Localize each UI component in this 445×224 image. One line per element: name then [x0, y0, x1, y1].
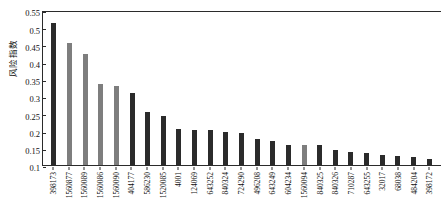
x-axis-labels: 3981731560877156008915600861560090404177… [42, 167, 441, 224]
bar-slot [124, 12, 140, 165]
x-tick-mark [429, 167, 430, 170]
x-tick-slot: 32017 [374, 167, 390, 224]
y-tick-label: 0.15 [25, 146, 43, 156]
bar-404177[interactable] [130, 93, 135, 165]
bar-slot [281, 12, 297, 165]
bar-slot [359, 12, 375, 165]
x-tick-label-484204: 484204 [409, 172, 418, 195]
bar-398173[interactable] [51, 23, 56, 165]
y-tick-0.45: 0.45 [25, 37, 43, 55]
x-tick-mark [288, 167, 289, 170]
x-tick-label-68038: 68038 [393, 172, 402, 191]
y-tick-label: 0.4 [29, 60, 43, 70]
y-tick-0.5: 0.5 [29, 20, 43, 38]
plot-area: 0.550.50.450.40.350.30.250.20.150.1 [42, 11, 441, 166]
x-tick-mark [319, 167, 320, 170]
bar-604234[interactable] [286, 145, 291, 165]
bar-slot [46, 12, 62, 165]
bar-slot [328, 12, 344, 165]
bar-68038[interactable] [395, 156, 400, 165]
x-tick-label-586230: 586230 [142, 172, 151, 195]
bar-643252[interactable] [208, 130, 213, 165]
x-tick-slot: 840324 [218, 167, 234, 224]
bar-slot [406, 12, 422, 165]
bar-643255[interactable] [364, 153, 369, 165]
bar-1560877[interactable] [67, 43, 72, 165]
x-tick-mark [178, 167, 179, 170]
x-tick-slot: 1560089 [76, 167, 92, 224]
bar-slot [249, 12, 265, 165]
bar-4001[interactable] [176, 129, 181, 165]
bar-840326[interactable] [333, 150, 338, 165]
x-tick-label-840325: 840325 [315, 172, 324, 195]
x-tick-label-1520085: 1520085 [158, 172, 167, 198]
bar-586230[interactable] [145, 112, 150, 165]
y-tick-0.35: 0.35 [25, 72, 43, 90]
y-tick-label: 0.55 [25, 8, 43, 18]
x-tick-mark [335, 167, 336, 170]
bar-840325[interactable] [317, 145, 322, 165]
x-tick-label-1560877: 1560877 [64, 172, 73, 198]
x-tick-label-840324: 840324 [221, 172, 230, 195]
bar-slot [390, 12, 406, 165]
x-tick-label-32017: 32017 [378, 172, 387, 191]
y-tick-0.1: 0.1 [29, 158, 43, 176]
bar-1560086[interactable] [98, 84, 103, 165]
bar-slot [155, 12, 171, 165]
x-tick-label-124069: 124069 [190, 172, 199, 195]
x-tick-mark [84, 167, 85, 170]
x-tick-mark [209, 167, 210, 170]
x-tick-mark [413, 167, 414, 170]
y-tick-label: 0.25 [25, 112, 43, 122]
x-tick-slot: 404177 [123, 167, 139, 224]
x-tick-slot: 1560086 [92, 167, 108, 224]
x-tick-mark [99, 167, 100, 170]
x-tick-label-643249: 643249 [268, 172, 277, 195]
y-tick-0.15: 0.15 [25, 141, 43, 159]
y-tick-label: 0.35 [25, 77, 43, 87]
bar-484204[interactable] [411, 157, 416, 165]
bar-1560089[interactable] [83, 54, 88, 165]
x-tick-mark [225, 167, 226, 170]
x-tick-slot: 1520085 [155, 167, 171, 224]
x-tick-mark [194, 167, 195, 170]
x-tick-mark [397, 167, 398, 170]
x-tick-slot: 840325 [312, 167, 328, 224]
x-tick-slot: 398172 [422, 167, 438, 224]
bar-840324[interactable] [223, 132, 228, 165]
x-tick-mark [366, 167, 367, 170]
x-tick-label-1560089: 1560089 [80, 172, 89, 198]
x-tick-mark [115, 167, 116, 170]
x-tick-slot: 643249 [265, 167, 281, 224]
bar-1560094[interactable] [302, 145, 307, 165]
y-tick-label: 0.1 [29, 163, 43, 173]
bar-710287[interactable] [348, 152, 353, 165]
bar-124069[interactable] [192, 130, 197, 165]
x-tick-slot: 643255 [359, 167, 375, 224]
x-tick-slot: 4001 [171, 167, 187, 224]
x-tick-label-710287: 710287 [346, 172, 355, 195]
bar-398172[interactable] [427, 159, 432, 165]
y-tick-label: 0.2 [29, 129, 43, 139]
x-tick-slot: 724290 [233, 167, 249, 224]
x-tick-mark [131, 167, 132, 170]
bar-slot [202, 12, 218, 165]
bar-1520085[interactable] [161, 116, 166, 165]
bar-slot [140, 12, 156, 165]
bar-32017[interactable] [380, 155, 385, 165]
bar-slot [109, 12, 125, 165]
bar-643249[interactable] [270, 141, 275, 165]
bar-1560090[interactable] [114, 86, 119, 165]
x-tick-mark [350, 167, 351, 170]
bar-496208[interactable] [255, 139, 260, 165]
x-tick-mark [382, 167, 383, 170]
bar-slot [171, 12, 187, 165]
x-tick-slot: 496208 [249, 167, 265, 224]
x-tick-slot: 710287 [343, 167, 359, 224]
bar-slot [234, 12, 250, 165]
x-tick-slot: 398173 [45, 167, 61, 224]
x-tick-label-724290: 724290 [237, 172, 246, 195]
x-tick-mark [68, 167, 69, 170]
x-tick-label-643252: 643252 [205, 172, 214, 195]
bar-724290[interactable] [239, 133, 244, 165]
